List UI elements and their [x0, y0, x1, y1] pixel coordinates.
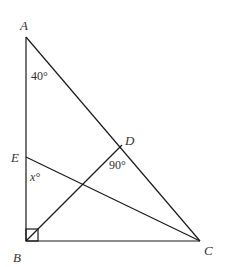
vertex-label-e: E — [10, 150, 19, 165]
angle-label-e: x° — [29, 170, 40, 184]
angle-label-d: 90° — [109, 158, 126, 172]
angle-label-a: 40° — [31, 69, 48, 83]
vertex-label-b: B — [13, 250, 21, 265]
segment-ac — [26, 37, 200, 241]
segment-bd — [26, 145, 122, 241]
geometry-diagram: A B C D E 40° 90° x° — [0, 0, 225, 267]
vertex-label-d: D — [124, 133, 135, 148]
vertex-label-a: A — [19, 18, 28, 33]
vertex-label-c: C — [204, 243, 213, 258]
